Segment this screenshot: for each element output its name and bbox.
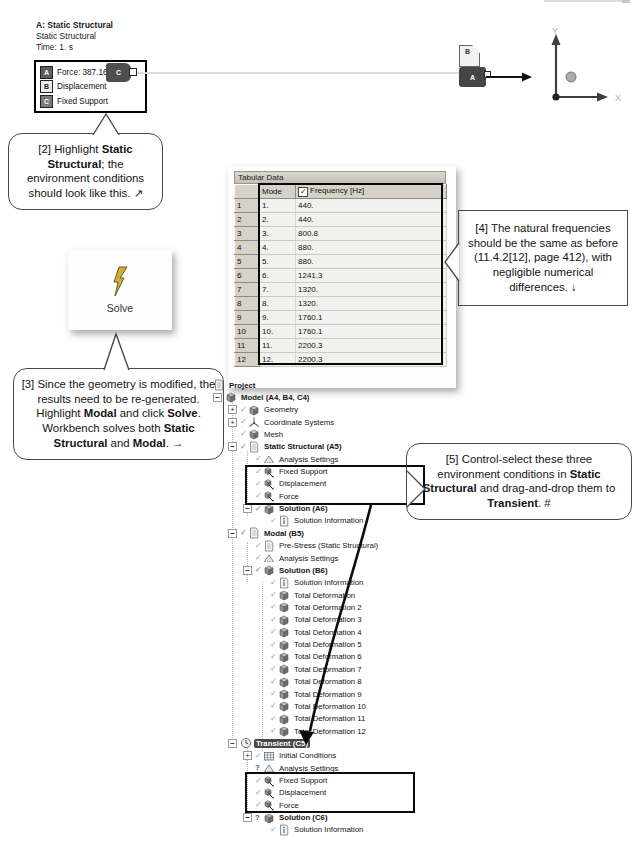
legend-item-fixed-support: C Fixed Support <box>40 95 141 108</box>
tree-item-transient-c5[interactable]: −Transient (C5) <box>228 737 310 749</box>
table-highlight-box <box>258 183 443 365</box>
expander-plus-icon[interactable]: + <box>228 405 237 414</box>
analysis-title: A: Static Structural <box>36 20 113 31</box>
expander-minus-icon[interactable]: − <box>228 529 237 538</box>
tree-item-label: Total Deformation 6 <box>292 652 364 661</box>
tree-item-project[interactable]: Project <box>213 379 257 391</box>
expander-minus-icon[interactable]: − <box>228 442 237 451</box>
callout-bold-text: Modal <box>133 437 166 449</box>
row-number-cell: 9 <box>235 311 260 325</box>
tree-item-label: Total Deformation 10 <box>292 702 368 711</box>
tree-item-pre-stress-static-structural[interactable]: ✓Pre-Stress (Static Structural) <box>243 540 380 552</box>
beam-left-vertex <box>129 68 137 76</box>
total-deformation-icon <box>278 614 290 626</box>
status-check-icon: ✓ <box>270 616 278 624</box>
callout-4: [4] The natural frequencies should be th… <box>458 210 628 306</box>
tree-item-label: Solution Information <box>292 825 365 834</box>
expander-plus-icon[interactable]: + <box>228 418 237 427</box>
tree-item-mesh[interactable]: ✓Mesh <box>228 428 285 440</box>
tree-item-label: Total Deformation 4 <box>292 628 364 637</box>
tree-item-initial-conditions[interactable]: +✓Initial Conditions <box>243 750 338 762</box>
tree-item-static-structural-a5[interactable]: −✓Static Structural (A5) <box>228 441 344 453</box>
tree-item-total-deformation-5[interactable]: ✓Total Deformation 5 <box>258 639 364 651</box>
tree-item-solution-information[interactable]: ✓Solution Information <box>258 577 365 589</box>
fixed-support-tag: C <box>106 63 131 82</box>
status-check-icon: ✓ <box>270 517 278 525</box>
tree-item-total-deformation[interactable]: ✓Total Deformation <box>258 589 357 601</box>
status-check-icon: ✓ <box>255 505 263 513</box>
status-check-icon: ✓ <box>255 566 263 574</box>
legend-color-chip-b: B <box>40 80 53 93</box>
tree-item-total-deformation-6[interactable]: ✓Total Deformation 6 <box>258 651 364 663</box>
callout-text: and click <box>117 407 168 419</box>
tree-item-total-deformation-8[interactable]: ✓Total Deformation 8 <box>258 676 364 688</box>
book-page: { "annotation_legend": { "title": "A: St… <box>0 0 633 847</box>
status-check-icon: ✓ <box>255 542 263 550</box>
geometry-icon <box>248 404 260 416</box>
status-check-icon: ✓ <box>270 702 278 710</box>
row-number-cell: 10 <box>235 325 260 339</box>
tree-item-geometry[interactable]: +✓Geometry <box>228 404 300 416</box>
tree-item-label: Geometry <box>262 405 300 414</box>
tree-item-solution-information[interactable]: ✓Solution Information <box>258 515 365 527</box>
environment-conditions-box-transient <box>245 772 415 813</box>
tree-item-solution-information[interactable]: ✓Solution Information <box>258 824 365 836</box>
tree-item-modal-b5[interactable]: −✓Modal (B5) <box>228 527 306 539</box>
callout-text: and <box>107 437 132 449</box>
legend-color-chip-c: C <box>40 95 53 108</box>
tree-item-total-deformation-4[interactable]: ✓Total Deformation 4 <box>258 626 364 638</box>
total-deformation-icon <box>278 601 290 613</box>
tree-item-analysis-settings[interactable]: ✓Analysis Settings <box>243 453 340 465</box>
status-check-icon: ✓ <box>270 591 278 599</box>
solve-button[interactable]: Solve <box>68 250 172 330</box>
expander-minus-icon[interactable]: − <box>228 739 237 748</box>
total-deformation-icon <box>278 651 290 663</box>
expander-minus-icon[interactable]: − <box>213 393 222 402</box>
expander-plus-icon[interactable]: + <box>243 751 252 760</box>
total-deformation-icon <box>278 700 290 712</box>
callout-3: [3] Since the geometry is modified, the … <box>13 368 224 460</box>
environment-legend-header: A: Static Structural Static Structural T… <box>36 20 113 53</box>
expander-minus-icon[interactable]: − <box>243 566 252 575</box>
solution-information-icon <box>278 824 290 836</box>
tree-item-coordinate-systems[interactable]: +✓Coordinate Systems <box>228 416 336 428</box>
status-check-icon: ✓ <box>270 579 278 587</box>
callout-text: [4] The natural frequencies should be th… <box>468 222 618 293</box>
legend-color-chip-a: A <box>40 66 53 79</box>
total-deformation-icon <box>278 713 290 725</box>
cropped-page-header <box>544 0 630 2</box>
tree-item-total-deformation-10[interactable]: ✓Total Deformation 10 <box>258 700 368 712</box>
tree-item-label: Total Deformation 11 <box>292 714 367 723</box>
status-check-icon: ✓ <box>255 752 263 760</box>
force-tag: A <box>459 67 486 87</box>
solve-button-label: Solve <box>107 302 133 314</box>
row-number-cell: 11 <box>235 339 260 353</box>
tree-item-label: Solution Information <box>292 578 365 587</box>
tree-item-label: Total Deformation 9 <box>292 690 364 699</box>
tree-item-total-deformation-12[interactable]: ✓Total Deformation 12 <box>258 725 368 737</box>
total-deformation-icon <box>278 589 290 601</box>
modal-icon <box>248 527 260 539</box>
row-number-cell: 7 <box>235 283 260 297</box>
tree-item-label: Total Deformation 2 <box>292 603 364 612</box>
y-axis-label: Y <box>552 26 558 36</box>
status-check-icon: ✓ <box>255 554 263 562</box>
tree-item-solution-b6[interactable]: −✓Solution (B6) <box>243 564 330 576</box>
status-check-icon: ✓ <box>270 641 278 649</box>
callout-text: . → <box>166 437 184 449</box>
tree-item-total-deformation-3[interactable]: ✓Total Deformation 3 <box>258 614 364 626</box>
tree-item-total-deformation-9[interactable]: ✓Total Deformation 9 <box>258 688 364 700</box>
tree-item-total-deformation-2[interactable]: ✓Total Deformation 2 <box>258 601 364 613</box>
initial-conditions-icon <box>263 750 275 762</box>
tree-item-total-deformation-7[interactable]: ✓Total Deformation 7 <box>258 663 364 675</box>
callout2-tail <box>93 114 119 135</box>
tree-item-total-deformation-11[interactable]: ✓Total Deformation 11 <box>258 713 367 725</box>
status-check-icon: ✓ <box>255 455 263 463</box>
tree-item-analysis-settings[interactable]: ✓Analysis Settings <box>243 552 340 564</box>
tree-item-model-a4-b4-c4[interactable]: −Model (A4, B4, C4) <box>213 391 311 403</box>
expander-minus-icon[interactable]: − <box>243 813 252 822</box>
expander-minus-icon[interactable]: − <box>243 504 252 513</box>
tree-item-solution-c6[interactable]: −?Solution (C6) <box>243 812 330 824</box>
legend-item-label: Fixed Support <box>57 97 108 106</box>
coordinate-systems-icon <box>248 416 260 428</box>
